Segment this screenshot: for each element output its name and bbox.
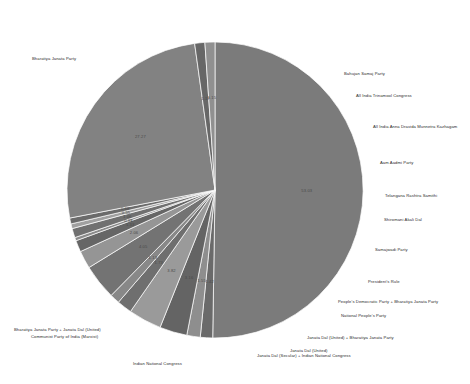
- pie-slice-percent-label: 1.15: [208, 95, 217, 100]
- pie-slice-percent-label: 1.55: [197, 278, 206, 283]
- pie-category-label: Bahujan Samaj Party: [344, 71, 386, 76]
- pie-category-label: Communist Party of India (Marxist): [31, 334, 99, 339]
- pie-slice-percent-label: 53.03: [301, 188, 312, 193]
- pie-slice-percent-label: 3.82: [167, 268, 176, 273]
- pie-chart-svg: 53.031.421.553.163.821.731.134.052.061.3…: [0, 0, 470, 384]
- pie-category-label: All India Anna Dravida Munnetra Kazhagam: [373, 124, 458, 129]
- pie-category-label: Aam Aadmi Party: [380, 160, 414, 165]
- pie-slice-percent-label: 1.73: [155, 260, 164, 265]
- pie-category-label: Bharatiya Janata Party + Janata Dal (Uni…: [14, 327, 101, 332]
- pie-chart-figure: 53.031.421.553.163.821.731.134.052.061.3…: [0, 0, 470, 384]
- pie-category-label: Janata Dal (Secular) + Indian National C…: [257, 353, 351, 358]
- pie-slices-group: [67, 42, 363, 338]
- pie-category-label: President's Rule: [368, 279, 400, 284]
- pie-slice-percent-label: 4.05: [139, 244, 148, 249]
- pie-category-label: Telangana Rashtra Samithi: [385, 193, 437, 198]
- pie-slice-percent-label: 1.13: [149, 255, 158, 260]
- pie-category-label: All India Trinamool Congress: [356, 93, 412, 98]
- pie-category-label: Shiromani Akali Dal: [384, 217, 422, 222]
- pie-slice-percent-label: 2.06: [130, 230, 139, 235]
- pie-category-label: People's Democratic Party + Bharatiya Ja…: [338, 299, 439, 304]
- pie-category-label: Indian National Congress: [133, 361, 182, 366]
- pie-slice-percent-label: 1.33: [126, 222, 135, 227]
- pie-slice: [67, 43, 215, 218]
- pie-slice-percent-label: 0.68: [121, 206, 130, 211]
- pie-slice-percent-label: 27.27: [135, 134, 146, 139]
- pie-slice: [213, 42, 363, 338]
- pie-category-label: Bharatiya Janata Party: [32, 56, 77, 61]
- pie-category-label: Samajwadi Party: [375, 247, 408, 252]
- pie-slice-percent-label: 3.16: [185, 275, 194, 280]
- pie-category-label: National People's Party: [341, 313, 387, 318]
- pie-category-label: Janata Dal (United) + Bharatiya Janata P…: [307, 335, 395, 340]
- pie-slice-percent-label: 1.42: [205, 279, 214, 284]
